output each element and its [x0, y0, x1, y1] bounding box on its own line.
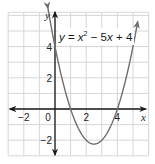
x-tick-labels: −2024 [18, 112, 121, 123]
x-axis-label: x [140, 111, 146, 123]
x-tick-label: 4 [115, 112, 121, 123]
y-tick-label: 4 [46, 42, 52, 53]
equation-label: y = x2 − 5x + 4 [58, 30, 133, 43]
y-tick-label: −2 [41, 135, 53, 146]
x-tick-label: −2 [18, 112, 30, 123]
x-tick-label: 2 [83, 112, 89, 123]
parabola-graph: y = x2 − 5x + 4 −2024 42−2 x y [0, 0, 155, 164]
y-tick-label: 2 [46, 73, 52, 84]
y-axis-label: y [44, 9, 50, 21]
x-tick-label: 0 [45, 112, 51, 123]
